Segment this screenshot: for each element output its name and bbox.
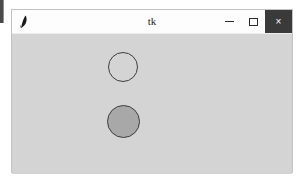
minimize-button[interactable]: [217, 10, 241, 33]
minimize-icon: [225, 21, 234, 22]
close-button[interactable]: ×: [265, 10, 292, 33]
feather-quill-icon: [12, 10, 34, 33]
canvas-circle-outline[interactable]: [108, 52, 138, 82]
close-icon: ×: [276, 17, 282, 27]
window-title-bar[interactable]: tk ×: [12, 10, 292, 34]
tk-window: tk ×: [11, 9, 293, 173]
window-controls: ×: [217, 10, 292, 33]
maximize-icon: [249, 18, 258, 26]
maximize-button[interactable]: [241, 10, 265, 33]
canvas-circle-filled[interactable]: [107, 105, 140, 138]
tk-canvas[interactable]: [12, 34, 292, 174]
offscreen-window-edge: [0, 0, 4, 23]
